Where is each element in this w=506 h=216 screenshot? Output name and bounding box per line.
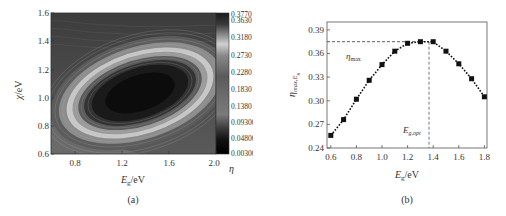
y-tick-label: 0.6	[38, 149, 50, 159]
data-point	[469, 76, 474, 81]
data-point	[418, 39, 423, 44]
y-axis-labels: 0.6 0.8 1.0 1.2 1.4 1.6	[38, 8, 50, 159]
data-point	[354, 97, 359, 102]
x-tick-label: 0.6	[325, 152, 337, 162]
x-axis-title: Eg/eV	[394, 169, 420, 182]
y-tick-label: 0.33	[308, 72, 324, 82]
panel-b-line-chart: 0.24 0.27 0.30 0.33 0.36 0.39 ηmax,Eg 0.…	[253, 0, 506, 216]
data-point	[367, 78, 372, 83]
x-tick-label: 0.8	[69, 158, 81, 168]
svg-text:χ/eV: χ/eV	[13, 80, 24, 101]
x-axis-labels: 0.8 1.2 1.6 2.0	[69, 158, 220, 168]
colorbar-tick: 0.3630	[231, 16, 252, 25]
y-tick-label: 0.8	[38, 121, 50, 131]
colorbar-tick: 0.2730	[231, 51, 252, 60]
colorbar-tick: 0.3180	[231, 33, 252, 42]
eta-max-annotation: ηmax	[346, 51, 361, 62]
colorbar-tick: 0.003000	[231, 149, 253, 158]
y-tick-label: 0.39	[308, 25, 324, 35]
x-tick-label: 1.4	[428, 152, 440, 162]
y-tick-label: 0.30	[308, 96, 324, 106]
panel-a-heatmap: 0.3770 0.3630 0.3180 0.2730 0.2280 0.183…	[0, 0, 253, 216]
data-point	[405, 41, 410, 46]
x-tick-label: 2.0	[208, 158, 220, 168]
data-point	[380, 62, 385, 67]
data-point	[392, 49, 397, 54]
data-point	[341, 117, 346, 122]
y-axis-ticks	[327, 30, 330, 148]
y-tick-label: 0.27	[308, 119, 324, 129]
colorbar-tick: 0.1380	[231, 102, 252, 111]
data-point	[482, 94, 487, 99]
y-tick-label: 1.0	[38, 93, 50, 103]
x-axis-labels: 0.6 0.8 1.0 1.2 1.4 1.6 1.8	[325, 152, 490, 162]
svg-text:ηmax,Eg: ηmax,Eg	[286, 73, 300, 97]
colorbar-label: η	[229, 163, 234, 174]
heatmap-svg: 0.3770 0.3630 0.3180 0.2730 0.2280 0.183…	[0, 0, 253, 216]
x-tick-label: 1.6	[163, 158, 175, 168]
x-tick-label: 0.8	[351, 152, 363, 162]
y-axis-title: χ/eV	[13, 80, 24, 101]
data-point	[431, 39, 436, 44]
line-chart-svg: 0.24 0.27 0.30 0.33 0.36 0.39 ηmax,Eg 0.…	[253, 0, 506, 216]
y-tick-label: 1.6	[38, 8, 50, 18]
x-tick-label: 1.6	[453, 152, 465, 162]
y-axis-labels: 0.24 0.27 0.30 0.33 0.36 0.39	[308, 25, 324, 153]
x-tick-label: 1.0	[376, 152, 388, 162]
caption-b: (b)	[401, 194, 413, 206]
y-tick-label: 0.36	[308, 48, 324, 58]
colorbar-tick: 0.09300	[231, 118, 253, 127]
colorbar-ticks: 0.3770 0.3630 0.3180 0.2730 0.2280 0.183…	[231, 10, 253, 158]
x-axis-title: Eg/eV	[120, 174, 146, 187]
y-tick-label: 0.24	[308, 143, 324, 153]
series-markers	[328, 39, 487, 138]
colorbar-tick: 0.2280	[231, 68, 252, 77]
y-tick-label: 1.4	[38, 36, 50, 46]
x-tick-label: 1.2	[402, 152, 413, 162]
x-tick-label: 1.2	[116, 158, 127, 168]
y-axis-title: ηmax,Eg	[286, 73, 300, 97]
caption-a: (a)	[127, 194, 138, 206]
colorbar	[216, 13, 229, 154]
colorbar-tick: 0.1830	[231, 85, 252, 94]
x-axis-ticks	[331, 145, 485, 148]
data-point	[444, 49, 449, 54]
colorbar-tick: 0.04800	[231, 134, 253, 143]
x-tick-label: 1.8	[479, 152, 491, 162]
data-point	[456, 61, 461, 66]
data-point	[328, 133, 333, 138]
eg-opt-annotation: Eg,opt	[402, 125, 421, 136]
y-tick-label: 1.2	[38, 65, 49, 75]
